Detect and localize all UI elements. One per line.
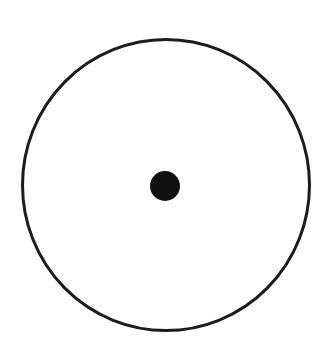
- center-dot: [150, 171, 180, 201]
- diagram-canvas: [0, 0, 327, 364]
